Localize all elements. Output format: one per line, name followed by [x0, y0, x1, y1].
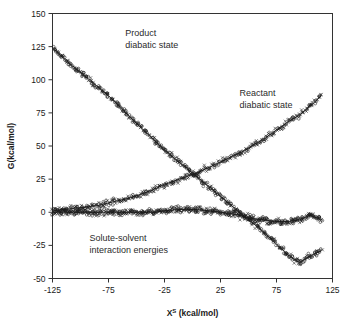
scatter-chart: -125-75-252575125 -50-250255075100125150…: [0, 0, 347, 323]
annotation: Productdiabatic state: [125, 28, 178, 50]
data-point-circle: [112, 204, 115, 207]
fit-line-2: [53, 96, 322, 211]
y-tick-label: 75: [36, 108, 46, 118]
y-tick-label: 0: [41, 207, 46, 217]
y-tick-label: 25: [36, 174, 46, 184]
data-point-circle: [62, 213, 65, 216]
x-tick-label: -75: [102, 285, 115, 295]
y-axis-ticks: [49, 14, 53, 279]
fit-line-1: [53, 48, 322, 263]
annotation-line: diabatic state: [125, 40, 178, 50]
data-point-circle: [297, 118, 300, 121]
y-tick-label: -25: [33, 240, 46, 250]
y-tick-label: 150: [31, 9, 45, 19]
series-2: [50, 93, 322, 216]
x-tick-label: -125: [44, 285, 61, 295]
x-axis-tick-labels: -125-75-252575125: [44, 285, 340, 295]
y-tick-label: 100: [31, 75, 45, 85]
annotation-line: Reactant: [240, 88, 277, 98]
annotation: Solute-solventinteraction energies: [89, 233, 168, 255]
x-axis-title: XS (kcal/mol): [167, 308, 219, 318]
y-tick-label: -50: [33, 274, 46, 284]
annotation-line: diabatic state: [240, 100, 293, 110]
y-axis-title: G(kcal/mol): [6, 123, 16, 169]
x-axis-ticks: [53, 279, 333, 283]
y-tick-label: 125: [31, 42, 45, 52]
annotation-line: Solute-solvent: [89, 233, 147, 243]
annotation-line: interaction energies: [89, 245, 168, 255]
data-point-circle: [202, 185, 205, 188]
y-tick-label: 50: [36, 141, 46, 151]
data-point-circle: [209, 207, 212, 210]
annotation-line: Product: [125, 28, 157, 38]
x-tick-label: 25: [216, 285, 226, 295]
y-axis-tick-labels: -50-250255075100125150: [31, 9, 45, 284]
annotation: Reactantdiabatic state: [240, 88, 293, 110]
x-tick-label: 125: [325, 285, 339, 295]
x-tick-label: -25: [158, 285, 171, 295]
x-tick-label: 75: [272, 285, 282, 295]
figure-container: -125-75-252575125 -50-250255075100125150…: [0, 0, 347, 323]
